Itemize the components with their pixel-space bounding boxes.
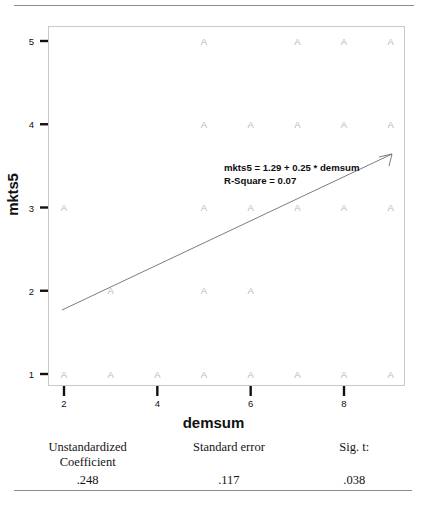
data-point-marker: A bbox=[387, 119, 394, 130]
data-point-marker: A bbox=[387, 369, 394, 380]
data-point-marker: A bbox=[387, 36, 394, 47]
data-point-marker: A bbox=[154, 369, 161, 380]
y-axis-ticks: 12345 bbox=[29, 36, 48, 380]
data-point-marker: A bbox=[201, 202, 208, 213]
table-value-row: .248 .117 .038 bbox=[14, 469, 412, 488]
scatterplot-figure: 12345 2468 AAAAAAAAAAAAAAAAAAAAAAAAAA mk… bbox=[0, 0, 427, 440]
fit-line-arrow-b bbox=[389, 154, 392, 166]
data-point-marker: A bbox=[201, 36, 208, 47]
y-axis-title: mkts5 bbox=[4, 165, 21, 225]
x-tick-label: 2 bbox=[61, 398, 66, 409]
data-point-marker: A bbox=[107, 369, 114, 380]
data-point-marker: A bbox=[201, 119, 208, 130]
annotation-rsquare: R-Square = 0.07 bbox=[224, 175, 359, 188]
value-standard-error: .117 bbox=[161, 469, 296, 488]
value-sig-t: .038 bbox=[297, 469, 412, 488]
data-point-marker: A bbox=[341, 369, 348, 380]
data-point-marker: A bbox=[201, 285, 208, 296]
x-tick-label: 8 bbox=[341, 398, 346, 409]
header-unstandardized-coefficient: Unstandardized Coefficient bbox=[14, 438, 161, 469]
data-point-marker: A bbox=[247, 202, 254, 213]
header-standard-error: Standard error bbox=[161, 438, 296, 469]
x-tick-label: 6 bbox=[248, 398, 253, 409]
y-tick-label: 3 bbox=[29, 203, 34, 214]
annotation-equation: mkts5 = 1.29 + 0.25 * demsum bbox=[224, 162, 359, 175]
regression-annotation: mkts5 = 1.29 + 0.25 * demsum R-Square = … bbox=[224, 162, 359, 187]
data-point-marker: A bbox=[341, 119, 348, 130]
bottom-divider-rule bbox=[14, 490, 412, 491]
data-point-marker: A bbox=[341, 202, 348, 213]
data-point-marker: A bbox=[247, 285, 254, 296]
header-sig-t: Sig. t: bbox=[297, 438, 412, 469]
data-point-marker: A bbox=[247, 119, 254, 130]
data-point-marker: A bbox=[294, 369, 301, 380]
fit-line-arrow-a bbox=[379, 154, 392, 157]
data-point-marker: A bbox=[201, 369, 208, 380]
y-tick-label: 1 bbox=[29, 369, 34, 380]
plot-frame bbox=[49, 27, 405, 386]
data-point-marker: A bbox=[341, 36, 348, 47]
x-axis-ticks: 2468 bbox=[61, 386, 346, 409]
data-point-markers: AAAAAAAAAAAAAAAAAAAAAAAAAA bbox=[61, 36, 395, 380]
y-tick-label: 4 bbox=[29, 119, 34, 130]
data-point-marker: A bbox=[387, 202, 394, 213]
header-line-2: Coefficient bbox=[14, 455, 161, 470]
table-header-row: Unstandardized Coefficient Standard erro… bbox=[14, 438, 412, 469]
data-point-marker: A bbox=[61, 202, 68, 213]
data-point-marker: A bbox=[294, 36, 301, 47]
x-axis-title: demsum bbox=[0, 414, 427, 431]
plot-canvas: 12345 2468 AAAAAAAAAAAAAAAAAAAAAAAAAA bbox=[0, 0, 427, 440]
x-tick-label: 4 bbox=[155, 398, 160, 409]
data-point-marker: A bbox=[294, 202, 301, 213]
data-point-marker: A bbox=[247, 369, 254, 380]
data-point-marker: A bbox=[107, 285, 114, 296]
data-point-marker: A bbox=[294, 119, 301, 130]
statistics-table: Unstandardized Coefficient Standard erro… bbox=[14, 438, 412, 488]
value-unstandardized-coefficient: .248 bbox=[14, 469, 161, 488]
y-tick-label: 5 bbox=[29, 36, 34, 47]
data-point-marker: A bbox=[61, 369, 68, 380]
header-line-1: Unstandardized bbox=[14, 440, 161, 455]
y-tick-label: 2 bbox=[29, 286, 34, 297]
